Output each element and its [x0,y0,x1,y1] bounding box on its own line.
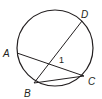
chord-bd [34,21,82,83]
label-d: D [81,9,88,20]
angle-1-label: 1 [59,55,64,65]
label-c: C [88,76,96,87]
label-a: A [2,48,10,59]
label-b: B [24,88,31,99]
circle-diagram: A B C D 1 [0,0,102,99]
chord-ac [17,53,84,76]
